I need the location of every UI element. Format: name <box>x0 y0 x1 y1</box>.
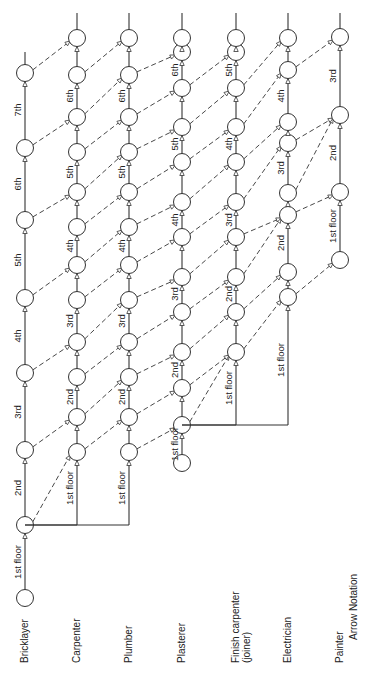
svg-text:(joiner): (joiner) <box>241 632 252 663</box>
trade-label: Painter <box>334 631 345 663</box>
dependency-arrow <box>190 165 230 199</box>
floor-label: 1st floor <box>169 427 180 461</box>
floor-label: 4th <box>275 89 286 102</box>
floor-label: 6th <box>12 177 23 190</box>
arrowhead-icon <box>286 47 290 52</box>
dependency-arrow <box>137 391 176 414</box>
event-node <box>121 257 138 274</box>
trade-label: Finish carpenter(joiner) <box>230 591 252 663</box>
floor-label: 3rd <box>275 161 286 175</box>
event-node <box>280 114 297 131</box>
event-node <box>174 119 191 136</box>
floor-label: 5th <box>169 137 180 150</box>
floor-label: 1st floor <box>64 471 75 505</box>
arrowhead-icon <box>234 246 238 251</box>
floor-label: 2nd <box>275 235 286 251</box>
event-node <box>332 29 349 46</box>
arrowhead-icon <box>234 97 238 102</box>
event-node <box>121 369 138 386</box>
column-finish-carpenter-joiner-: 1st floor2nd3rd4th5th <box>182 13 245 425</box>
event-node <box>69 109 86 126</box>
event-node <box>228 80 245 97</box>
event-node <box>17 290 34 307</box>
floor-label: 4th <box>64 239 75 252</box>
event-node <box>121 67 138 84</box>
event-node <box>280 135 297 152</box>
dependency-arrow <box>296 263 334 294</box>
arrowhead-icon <box>286 281 290 286</box>
dependency-arrow <box>85 420 123 449</box>
dependency-arrow <box>244 300 282 349</box>
svg-text:Bricklayer: Bricklayer <box>19 618 30 663</box>
column-carpenter: 1st floor2nd3rd4th5th6th <box>25 13 86 525</box>
event-node <box>121 184 138 201</box>
arrowhead-icon <box>338 46 342 51</box>
event-node <box>121 409 138 426</box>
arrowhead-icon <box>127 84 131 89</box>
event-node <box>174 194 191 211</box>
arrowhead-icon <box>75 84 79 89</box>
event-node <box>17 590 34 607</box>
arrowhead-icon <box>75 126 79 131</box>
arrowhead-icon <box>180 61 184 66</box>
floor-label: 5th <box>223 63 234 76</box>
floor-label: 1st floor <box>275 343 286 377</box>
svg-text:Electrician: Electrician <box>282 617 293 663</box>
event-node <box>280 264 297 281</box>
svg-text:Plasterer: Plasterer <box>176 622 187 663</box>
event-node <box>174 80 191 97</box>
event-node <box>280 62 297 79</box>
floor-label: 3rd <box>327 69 338 83</box>
floor-label: 6th <box>64 89 75 102</box>
event-node <box>69 334 86 351</box>
event-node <box>228 194 245 211</box>
floor-label: 3rd <box>64 314 75 328</box>
arrowhead-icon <box>180 171 184 176</box>
arrowhead-icon <box>286 152 290 157</box>
arrowhead-icon <box>180 211 184 216</box>
dependency-arrow <box>244 41 282 85</box>
event-node <box>174 380 191 397</box>
event-node <box>332 107 349 124</box>
arrowhead-icon <box>75 351 79 356</box>
event-node <box>69 219 86 236</box>
trade-columns: 1st floor2nd3rd4th5th6th7th1st floor2nd3… <box>12 13 349 607</box>
arrowhead-icon <box>127 461 131 466</box>
svg-text:Finish carpenter: Finish carpenter <box>230 591 241 663</box>
arrowhead-icon <box>127 386 131 391</box>
arrowhead-icon <box>127 274 131 279</box>
arrowhead-icon <box>338 124 342 129</box>
arrowhead-icon <box>23 534 27 539</box>
dependency-arrow <box>190 240 230 274</box>
dependency-arrow <box>85 268 123 297</box>
dependency-arrow <box>33 195 71 217</box>
event-node <box>174 269 191 286</box>
arrowhead-icon <box>75 47 79 52</box>
dependency-arrow <box>85 195 123 224</box>
dependency-arrow <box>244 275 282 309</box>
arrowhead-icon <box>180 321 184 326</box>
dependency-arrow <box>85 41 123 72</box>
event-node <box>121 334 138 351</box>
event-node <box>228 304 245 321</box>
column-bricklayer: 1st floor2nd3rd4th5th6th7th <box>12 52 34 607</box>
event-node <box>121 444 138 461</box>
arrowhead-icon <box>286 306 290 311</box>
arrowhead-icon <box>127 236 131 241</box>
arrowhead-icon <box>180 434 184 439</box>
event-node <box>280 207 297 224</box>
dependency-arrow <box>85 345 123 374</box>
floor-label: 3rd <box>12 405 23 419</box>
dependency-arrow <box>33 420 71 447</box>
event-node <box>69 257 86 274</box>
floor-label: 7th <box>12 103 23 116</box>
arrowhead-icon <box>234 211 238 216</box>
arrowhead-icon <box>234 361 238 366</box>
arrowhead-icon <box>234 136 238 141</box>
event-node <box>69 184 86 201</box>
trade-label: Plumber <box>123 625 134 663</box>
arrowhead-icon <box>234 171 238 176</box>
arrowhead-icon <box>180 397 184 402</box>
dependency-arrow <box>33 268 71 295</box>
event-node <box>228 154 245 171</box>
